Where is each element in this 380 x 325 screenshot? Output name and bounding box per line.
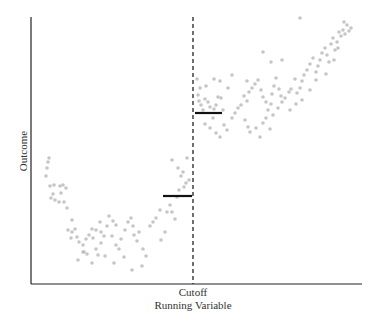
data-point <box>62 200 66 204</box>
data-point <box>298 16 302 20</box>
data-point <box>99 230 103 234</box>
data-point <box>117 247 121 251</box>
data-point <box>144 254 148 258</box>
data-point <box>212 77 216 81</box>
data-point <box>230 116 234 120</box>
data-point <box>308 62 312 66</box>
data-point <box>256 78 260 82</box>
data-point <box>87 233 91 237</box>
data-point <box>122 255 126 259</box>
data-point <box>111 219 115 223</box>
data-point <box>52 183 56 187</box>
data-point <box>218 79 222 83</box>
data-point <box>331 36 335 40</box>
data-point <box>339 34 343 38</box>
data-point <box>320 51 324 55</box>
data-point <box>141 247 145 251</box>
data-point <box>208 105 212 109</box>
data-point <box>206 100 210 104</box>
data-point <box>47 156 51 160</box>
data-point <box>77 240 81 244</box>
data-point <box>283 96 287 100</box>
data-point <box>137 230 141 234</box>
data-point <box>264 100 268 104</box>
data-point <box>271 113 275 117</box>
data-point <box>196 93 200 97</box>
data-point <box>245 99 249 103</box>
data-point <box>70 230 74 234</box>
data-point <box>177 188 181 192</box>
data-point <box>293 77 297 81</box>
data-point <box>197 99 201 103</box>
data-point <box>226 86 230 90</box>
data-point <box>327 60 331 64</box>
data-point <box>302 73 306 77</box>
data-point <box>254 126 258 130</box>
data-point <box>103 254 107 258</box>
data-point <box>148 224 152 228</box>
data-point <box>65 206 69 210</box>
data-point <box>66 228 70 232</box>
data-point <box>245 79 249 83</box>
data-point <box>269 102 273 106</box>
data-point <box>90 261 94 265</box>
data-point <box>102 234 106 238</box>
data-point <box>140 264 144 268</box>
data-point <box>264 116 268 120</box>
data-point <box>90 227 94 231</box>
data-point <box>287 90 291 94</box>
data-point <box>70 218 74 222</box>
data-point <box>214 131 218 135</box>
data-point <box>114 223 118 227</box>
data-point <box>347 29 351 33</box>
data-point <box>214 103 218 107</box>
data-point <box>165 210 169 214</box>
data-point <box>182 185 186 189</box>
data-point <box>94 247 98 251</box>
data-point <box>225 128 229 132</box>
data-point <box>318 58 322 62</box>
data-point <box>333 48 337 52</box>
data-point <box>329 42 333 46</box>
data-point <box>81 250 85 254</box>
data-point <box>158 208 162 212</box>
data-point <box>208 126 212 130</box>
data-point <box>195 77 199 81</box>
data-point <box>222 123 226 127</box>
data-point <box>110 234 114 238</box>
data-point <box>187 178 191 182</box>
data-point <box>151 220 155 224</box>
data-point <box>298 86 302 90</box>
data-point <box>107 214 111 218</box>
data-point <box>163 230 167 234</box>
data-point <box>84 237 88 241</box>
data-point <box>279 94 283 98</box>
data-point <box>300 98 304 102</box>
data-point <box>105 224 109 228</box>
data-point <box>184 181 188 185</box>
data-point <box>236 106 240 110</box>
data-point <box>345 23 349 27</box>
data-point <box>342 20 346 24</box>
data-point <box>305 68 309 72</box>
data-point <box>179 174 183 178</box>
data-point <box>219 96 223 100</box>
data-point <box>261 121 265 125</box>
data-point <box>300 79 304 83</box>
data-point <box>274 76 278 80</box>
data-point <box>44 174 48 178</box>
data-point <box>324 72 328 76</box>
data-point <box>276 106 280 110</box>
data-point <box>261 95 265 99</box>
data-point <box>349 26 353 30</box>
data-point <box>91 236 95 240</box>
data-point <box>268 127 272 131</box>
data-point <box>204 84 208 88</box>
data-point <box>239 103 243 107</box>
data-point <box>81 243 85 247</box>
data-point <box>69 236 73 240</box>
data-point <box>230 73 234 77</box>
data-point <box>258 135 262 139</box>
scatter-points <box>44 16 353 272</box>
data-point <box>261 50 265 54</box>
